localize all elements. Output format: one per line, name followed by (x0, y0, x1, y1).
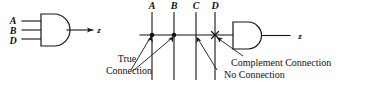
bus-column-label-c: C (193, 0, 200, 11)
left-and-gate-group: A B D z (8, 14, 101, 46)
bus-column-label-a: A (148, 0, 156, 11)
junction-dot-a-true-connection (150, 33, 155, 38)
right-gate-output-label: z (297, 31, 302, 41)
left-gate-input-label-d: D (8, 35, 16, 46)
bus-column-label-b: B (170, 0, 178, 11)
bus-column-label-d: D (210, 0, 218, 11)
diagram-canvas: A B D z A B C D (0, 0, 365, 87)
product-term-row-group (140, 32, 233, 39)
input-bus-group: A B C D (148, 0, 219, 80)
no-connection-arrowhead (197, 37, 202, 43)
true-connection-label-line1: True (118, 53, 137, 64)
right-and-gate-group: z (233, 22, 302, 49)
annotation-true-connection-group: True Connection (106, 36, 174, 76)
complement-connection-label: Complement Connection (231, 57, 331, 68)
true-connection-arrowhead-b (168, 36, 174, 42)
right-and-gate-body (233, 22, 262, 49)
left-gate-output-label: z (96, 25, 101, 35)
no-connection-label: No Connection (224, 69, 285, 80)
true-connection-label-line2: Connection (106, 65, 152, 76)
junction-dot-b-true-connection (172, 33, 177, 38)
pla-notation-diagram: A B D z A B C D (0, 0, 365, 87)
no-connection-leader (198, 39, 217, 70)
left-and-gate-body (41, 14, 70, 46)
complement-connection-arrowhead (217, 37, 223, 43)
